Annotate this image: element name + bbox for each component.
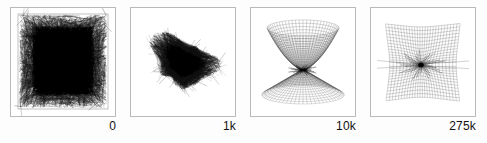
caption-iteration-10k: 10k <box>250 119 356 133</box>
figure-panel-strip: 0 1k 10k 275k <box>0 0 487 143</box>
scribble-mesh-graphic <box>11 8 115 116</box>
caption-iteration-275k: 275k <box>370 119 476 133</box>
caption-iteration-0: 0 <box>10 119 116 133</box>
crumpled-blob-graphic <box>131 8 235 116</box>
caption-iteration-1k: 1k <box>130 119 236 133</box>
panel-iteration-1k <box>130 7 236 117</box>
flat-grid-singularity-graphic <box>371 8 475 116</box>
hourglass-surface-graphic <box>251 8 355 116</box>
panel-iteration-10k <box>250 7 356 117</box>
panel-iteration-275k <box>370 7 476 117</box>
panel-iteration-0 <box>10 7 116 117</box>
